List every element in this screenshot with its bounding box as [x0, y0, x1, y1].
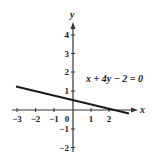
- x-tick-labels: −3 −2 −1 0 1 2: [12, 114, 112, 124]
- y-axis-arrow-icon: [71, 22, 76, 29]
- x-tick-label: 2: [107, 114, 112, 124]
- y-axis: [71, 22, 76, 152]
- x-tick-label: −2: [31, 114, 41, 124]
- y-tick-label: 1: [65, 86, 70, 96]
- y-tick-label: −2: [59, 143, 69, 153]
- x-axis-label: x: [139, 104, 145, 115]
- x-tick-label: −3: [12, 114, 22, 124]
- x-tick-label: −1: [49, 114, 59, 124]
- x-axis-arrow-icon: [131, 108, 138, 113]
- y-tick-label: −1: [59, 124, 69, 134]
- chart-plot: −3 −2 −1 0 1 2 −2 −1 1 2 3 4 x y x + 4y …: [0, 0, 152, 166]
- x-tick-label: 1: [89, 114, 94, 124]
- y-tick-label: 4: [65, 30, 70, 40]
- equation-label: x + 4y − 2 = 0: [85, 73, 143, 84]
- y-tick-label: 2: [65, 67, 70, 77]
- y-tick-labels: −2 −1 1 2 3 4: [59, 30, 69, 153]
- y-tick-label: 3: [65, 49, 70, 59]
- x-tick-label: 0: [65, 114, 70, 124]
- y-axis-label: y: [69, 9, 75, 20]
